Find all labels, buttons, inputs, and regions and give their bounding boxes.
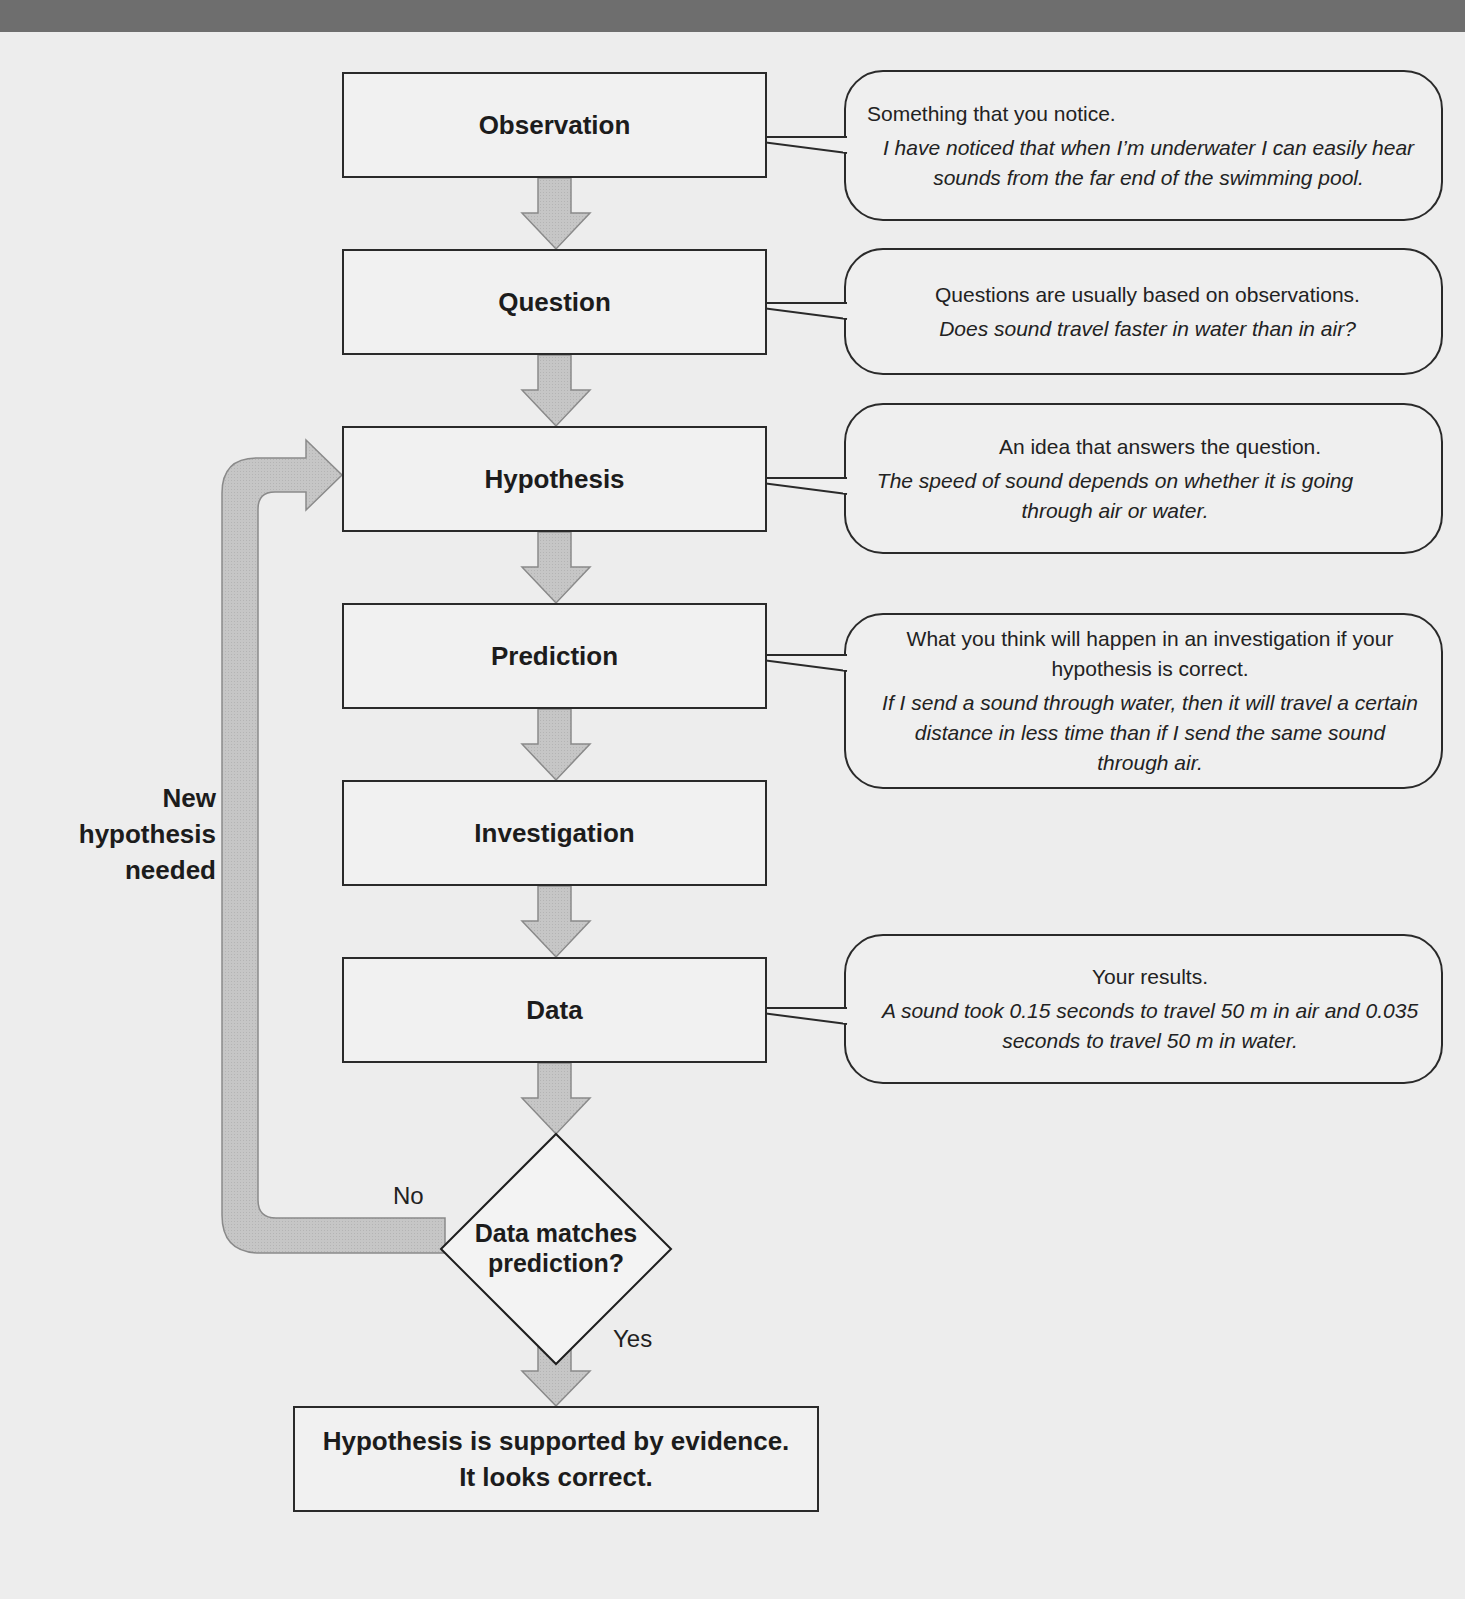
callout-definition: Your results. bbox=[880, 962, 1420, 992]
decision-line: Data matches bbox=[456, 1218, 656, 1248]
no-label: No bbox=[393, 1182, 424, 1210]
down-arrow-1 bbox=[522, 178, 590, 249]
down-arrow-4 bbox=[522, 709, 590, 780]
callout-example: The speed of sound depends on whether it… bbox=[865, 466, 1365, 526]
step-observation: Observation bbox=[342, 72, 767, 178]
down-arrow-5 bbox=[522, 886, 590, 957]
step-prediction: Prediction bbox=[342, 603, 767, 709]
step-label: Hypothesis bbox=[484, 464, 624, 495]
decision-text: Data matches prediction? bbox=[456, 1218, 656, 1278]
callout-hypothesis: An idea that answers the question. The s… bbox=[855, 404, 1375, 553]
conclusion-line: Hypothesis is supported by evidence. bbox=[295, 1423, 817, 1459]
step-data: Data bbox=[342, 957, 767, 1063]
callout-observation: Something that you notice. I have notice… bbox=[855, 71, 1440, 220]
callout-example: I have noticed that when I’m underwater … bbox=[867, 133, 1430, 193]
decision-line: prediction? bbox=[456, 1248, 656, 1278]
step-question: Question bbox=[342, 249, 767, 355]
step-label: Investigation bbox=[474, 818, 634, 849]
callout-example: Does sound travel faster in water than i… bbox=[865, 314, 1430, 344]
step-hypothesis: Hypothesis bbox=[342, 426, 767, 532]
conclusion-box: Hypothesis is supported by evidence. It … bbox=[293, 1406, 819, 1512]
callout-prediction: What you think will happen in an investi… bbox=[870, 614, 1430, 788]
loop-label: New hypothesis needed bbox=[60, 780, 216, 888]
callout-definition: Questions are usually based on observati… bbox=[865, 280, 1430, 310]
callout-definition: Something that you notice. bbox=[867, 99, 1430, 129]
callout-definition: An idea that answers the question. bbox=[865, 432, 1365, 462]
step-investigation: Investigation bbox=[342, 780, 767, 886]
step-label: Question bbox=[498, 287, 611, 318]
down-arrow-3 bbox=[522, 532, 590, 603]
step-label: Prediction bbox=[491, 641, 618, 672]
callout-example: If I send a sound through water, then it… bbox=[880, 688, 1420, 778]
conclusion-line: It looks correct. bbox=[295, 1459, 817, 1495]
loop-label-line: New bbox=[60, 780, 216, 816]
callout-example: A sound took 0.15 seconds to travel 50 m… bbox=[880, 996, 1420, 1056]
down-arrow-2 bbox=[522, 355, 590, 426]
down-arrow-6 bbox=[522, 1063, 590, 1134]
callout-question: Questions are usually based on observati… bbox=[855, 249, 1440, 374]
callout-definition: What you think will happen in an investi… bbox=[880, 624, 1420, 684]
loop-label-line: hypothesis bbox=[60, 816, 216, 852]
loop-label-line: needed bbox=[60, 852, 216, 888]
callout-data: Your results. A sound took 0.15 seconds … bbox=[870, 935, 1430, 1083]
step-label: Data bbox=[526, 995, 582, 1026]
yes-label: Yes bbox=[613, 1325, 652, 1353]
step-label: Observation bbox=[479, 110, 631, 141]
